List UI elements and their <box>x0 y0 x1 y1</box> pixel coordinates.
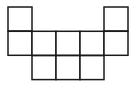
grid-cell-r0-c0 <box>8 7 32 31</box>
grid-cell-r0-c4 <box>104 7 128 31</box>
square-net-diagram <box>0 0 134 90</box>
grid-cell-r1-c2 <box>56 31 80 55</box>
grid-cell-r1-c1 <box>32 31 56 55</box>
grid-cell-r1-c0 <box>8 31 32 55</box>
grid-cell-r2-c3 <box>80 56 104 80</box>
grid-cell-r2-c2 <box>56 56 80 80</box>
grid-cell-r2-c1 <box>32 56 56 80</box>
grid-cell-r1-c3 <box>80 31 104 55</box>
grid-cell-r1-c4 <box>104 31 128 55</box>
